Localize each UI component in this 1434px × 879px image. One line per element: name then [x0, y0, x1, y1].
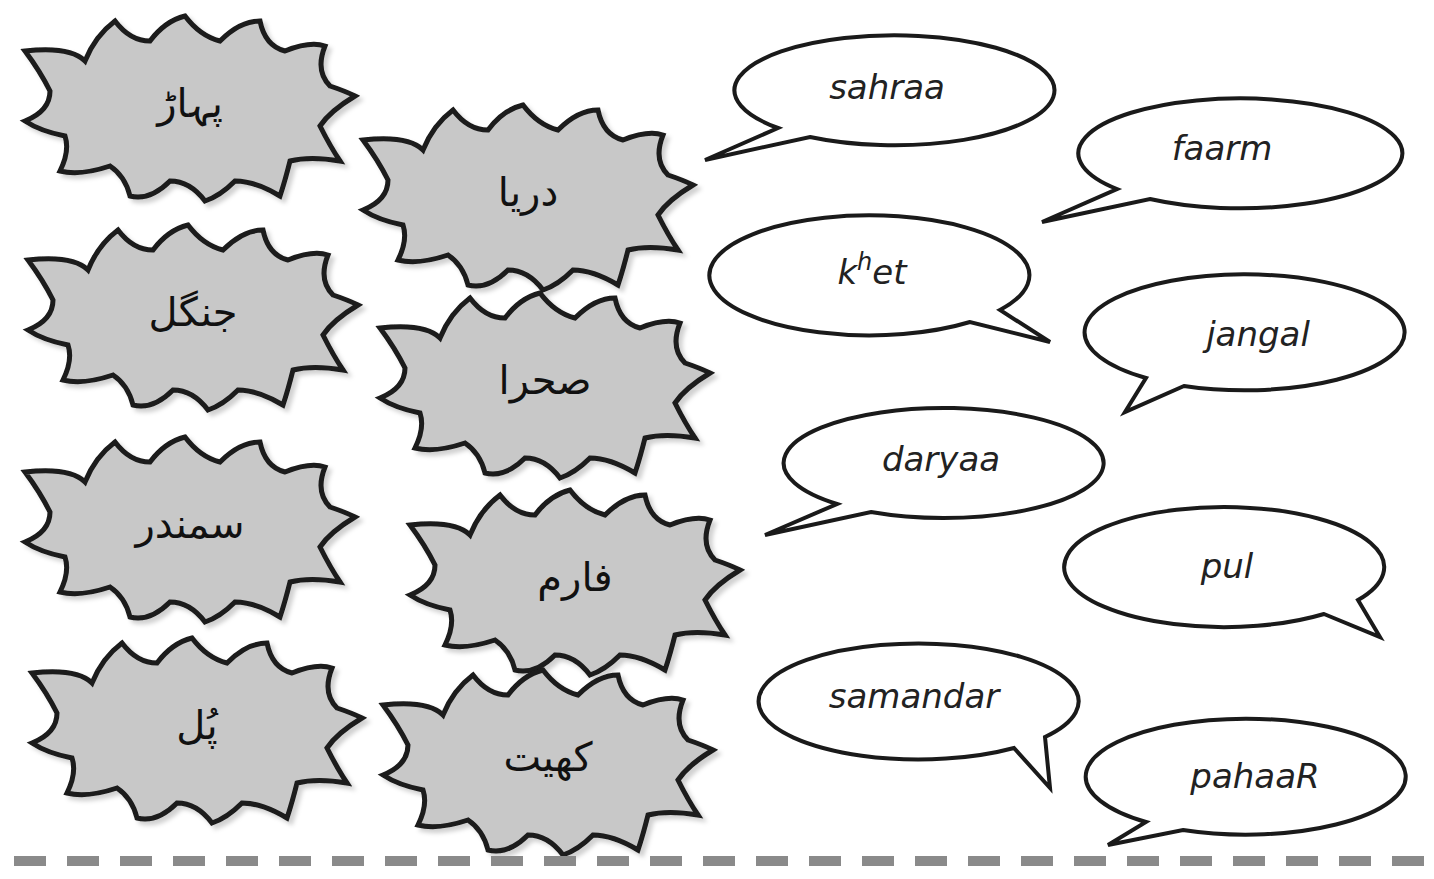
- urdu-card-sahra: صحرا: [380, 293, 710, 478]
- urdu-word: فارم: [537, 554, 612, 601]
- worksheet-canvas: پہاڑ دریا جنگل صحرا سمندر فارم پُل کھیت …: [0, 0, 1434, 879]
- urdu-card-pul: پُل: [32, 638, 362, 823]
- bubble-faarm: faarm: [1042, 98, 1402, 222]
- bubble-samandar: samandar: [759, 643, 1079, 788]
- bubble-pul: pul: [1064, 507, 1384, 637]
- transliteration-text: samandar: [829, 676, 1001, 716]
- urdu-word: سمندر: [133, 501, 244, 548]
- urdu-word: پُل: [176, 702, 218, 749]
- bubble-daryaa: daryaa: [765, 408, 1104, 535]
- urdu-card-khet: کھیت: [383, 670, 713, 855]
- urdu-card-samandar: سمندر: [25, 437, 355, 622]
- transliteration-text: khet: [837, 248, 908, 292]
- urdu-word: پہاڑ: [155, 80, 223, 127]
- cut-line-divider: [14, 856, 1424, 866]
- transliteration-text: daryaa: [882, 439, 1000, 479]
- bubble-pahaaR: pahaaR: [1086, 719, 1406, 845]
- urdu-card-jangal: جنگل: [28, 225, 358, 410]
- urdu-word: کھیت: [504, 734, 594, 781]
- bubble-khet: khet: [709, 215, 1050, 342]
- transliteration-text: faarm: [1172, 128, 1273, 168]
- urdu-word: جنگل: [148, 289, 237, 335]
- transliteration-text: pul: [1200, 546, 1254, 586]
- transliteration-text: pahaaR: [1189, 756, 1319, 796]
- urdu-card-darya: دریا: [363, 105, 693, 290]
- urdu-word: دریا: [498, 169, 558, 216]
- transliteration-text: sahraa: [829, 67, 945, 107]
- urdu-word: صحرا: [499, 357, 592, 404]
- transliteration-text: jangal: [1202, 314, 1310, 354]
- urdu-card-farm: فارم: [410, 490, 740, 675]
- bubble-sahraa: sahraa: [705, 35, 1054, 160]
- urdu-card-pahaar: پہاڑ: [25, 16, 355, 201]
- bubble-jangal: jangal: [1085, 274, 1405, 412]
